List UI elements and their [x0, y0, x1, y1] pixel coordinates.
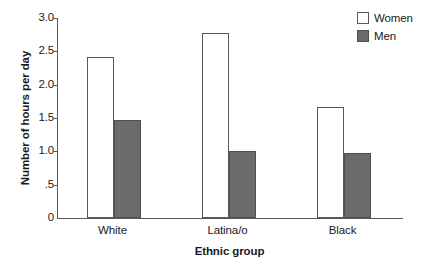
y-axis-tick-label: 1.5 [20, 112, 54, 123]
y-axis-tick-label: 3.0 [20, 12, 54, 23]
bar-black-men [344, 153, 371, 218]
y-axis-tick-labels: 0.51.01.52.02.53.0 [18, 0, 54, 273]
y-axis-tick-label: 1.0 [20, 145, 54, 156]
chart-legend: WomenMen [357, 10, 423, 46]
legend-swatch-icon [357, 30, 369, 42]
y-axis-tick-mark [53, 185, 58, 186]
bar-group [87, 18, 141, 218]
legend-label: Men [374, 30, 396, 42]
legend-item-men: Men [357, 28, 423, 44]
bar-white-women [87, 57, 114, 218]
x-axis-title: Ethnic group [57, 245, 402, 257]
bar-group [202, 18, 256, 218]
y-axis-tick-mark [53, 51, 58, 52]
y-axis-tick-label: 2.5 [20, 45, 54, 56]
plot-area [57, 18, 403, 219]
y-axis-tick-mark [53, 118, 58, 119]
x-axis-category-label: White [56, 224, 170, 236]
legend-label: Women [374, 12, 413, 24]
legend-item-women: Women [357, 10, 423, 26]
bar-white-men [114, 120, 141, 218]
y-axis-tick-label: 0 [20, 212, 54, 223]
y-axis-tick-mark [53, 151, 58, 152]
bar-black-women [317, 107, 344, 218]
bar-chart-figure: Number of hours per day 0.51.01.52.02.53… [0, 0, 426, 273]
bar-latina-o-men [229, 151, 256, 218]
y-axis-tick-label: 2.0 [20, 79, 54, 90]
y-axis-tick-label: .5 [20, 179, 54, 190]
bar-group [317, 18, 371, 218]
bar-latina-o-women [202, 33, 229, 218]
x-axis-category-label: Latina/o [171, 224, 285, 236]
legend-swatch-icon [357, 12, 369, 24]
x-axis-category-label: Black [286, 224, 400, 236]
y-axis-tick-mark [53, 85, 58, 86]
y-axis-tick-mark [53, 18, 58, 19]
